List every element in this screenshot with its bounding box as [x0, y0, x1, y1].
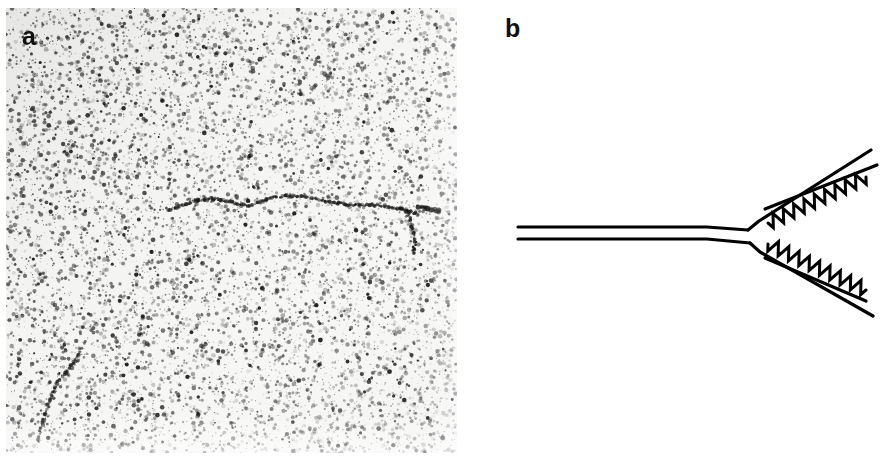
- lower-arm-zigzag-strand: [768, 242, 866, 295]
- panel-a-label: a: [22, 24, 36, 49]
- upper-arm-inner-strand: [765, 165, 877, 209]
- schematic-strand-layer: [518, 150, 877, 316]
- figure-root: a b: [0, 0, 882, 467]
- stem-strand-bottom: [518, 239, 750, 243]
- electron-micrograph-image: [6, 8, 457, 453]
- panel-b-label: b: [505, 16, 520, 41]
- stem-strand-top: [518, 227, 748, 230]
- panel-a-micrograph: a: [6, 8, 457, 453]
- branched-dna-schematic: [457, 0, 882, 467]
- panel-b-schematic: b: [457, 0, 882, 467]
